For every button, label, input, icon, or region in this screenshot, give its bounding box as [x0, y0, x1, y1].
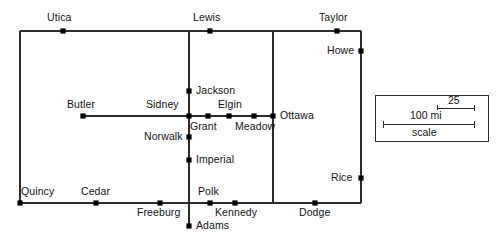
city-marker-freeburg[interactable]: [157, 200, 162, 205]
city-marker-meadow[interactable]: [251, 113, 256, 118]
city-marker-ottawa[interactable]: [270, 113, 275, 118]
city-label-norwalk: Norwalk: [144, 131, 183, 142]
city-label-butler: Butler: [67, 99, 95, 110]
city-label-sidney: Sidney: [146, 99, 179, 110]
city-label-lewis: Lewis: [193, 12, 220, 23]
city-label-kennedy: Kennedy: [215, 207, 257, 218]
city-label-elgin: Elgin: [218, 99, 242, 110]
city-label-imperial: Imperial: [196, 154, 234, 165]
city-marker-norwalk[interactable]: [186, 134, 191, 139]
city-marker-howe[interactable]: [358, 48, 363, 53]
city-label-howe: Howe: [327, 45, 354, 56]
city-label-adams: Adams: [196, 220, 229, 231]
city-marker-polk[interactable]: [207, 200, 212, 205]
city-marker-elgin[interactable]: [226, 113, 231, 118]
city-marker-adams[interactable]: [186, 223, 191, 228]
city-marker-jackson[interactable]: [186, 88, 191, 93]
city-marker-sidney[interactable]: [186, 113, 191, 118]
scale-caption-label: scale: [412, 127, 437, 138]
city-label-dodge: Dodge: [299, 207, 330, 218]
map-canvas: UticaLewisTaylorHoweJacksonButlerSidneyG…: [0, 0, 497, 240]
city-label-jackson: Jackson: [196, 85, 235, 96]
city-label-grant: Grant: [190, 121, 217, 132]
city-marker-grant[interactable]: [205, 113, 210, 118]
city-marker-dodge[interactable]: [312, 200, 317, 205]
city-label-meadow: Meadow: [235, 121, 275, 132]
city-marker-cedar[interactable]: [93, 200, 98, 205]
city-label-cedar: Cedar: [81, 186, 110, 197]
city-marker-utica[interactable]: [60, 28, 65, 33]
city-label-taylor: Taylor: [319, 12, 348, 23]
city-marker-lewis[interactable]: [207, 28, 212, 33]
city-label-polk: Polk: [198, 186, 219, 197]
city-label-quincy: Quincy: [21, 186, 54, 197]
city-marker-quincy[interactable]: [17, 200, 22, 205]
city-label-ottawa: Ottawa: [280, 110, 314, 121]
scale-short-distance-label: 25: [448, 95, 460, 106]
city-label-utica: Utica: [47, 12, 71, 23]
scale-long-distance-label: 100 mi: [407, 110, 445, 121]
city-label-rice: Rice: [331, 172, 352, 183]
city-marker-imperial[interactable]: [186, 157, 191, 162]
city-marker-rice[interactable]: [358, 175, 363, 180]
city-marker-butler[interactable]: [80, 113, 85, 118]
city-marker-kennedy[interactable]: [232, 200, 237, 205]
city-marker-taylor[interactable]: [334, 28, 339, 33]
city-label-freeburg: Freeburg: [137, 207, 180, 218]
